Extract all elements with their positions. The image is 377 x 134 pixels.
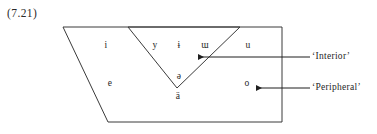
vowel-a-diaeresis: ä	[176, 91, 180, 101]
vowel-u: u	[246, 40, 251, 50]
vowel-space-figure: (7.21) i y ɨ ɯ u e ə o ä ‘Interior’ ‘Per…	[0, 0, 377, 134]
vowel-i: i	[105, 40, 108, 50]
label-peripheral: ‘Peripheral’	[312, 82, 361, 92]
vowel-schwa: ə	[177, 71, 181, 81]
vowel-barred-i: ɨ	[178, 40, 181, 50]
vowel-turned-m: ɯ	[201, 40, 209, 50]
diagram-canvas	[0, 0, 377, 134]
vowel-y: y	[153, 40, 158, 50]
vowel-o: o	[245, 78, 250, 88]
vowel-e: e	[108, 78, 112, 88]
label-interior: ‘Interior’	[312, 51, 350, 61]
